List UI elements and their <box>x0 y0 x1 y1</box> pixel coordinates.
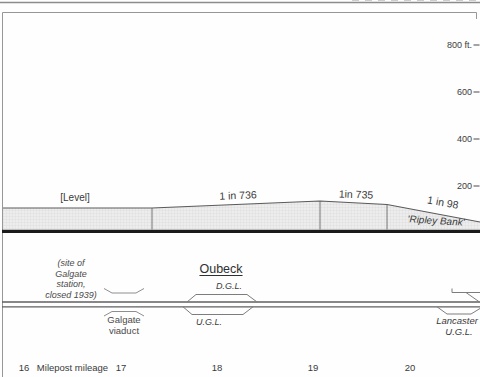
galgate-station-note: (site of Galgate station, closed 1939) <box>45 258 97 300</box>
oubeck-up-goods-loop <box>183 307 253 315</box>
gradient-label-level: [Level] <box>60 192 89 204</box>
oubeck-dgl-label: D.G.L. <box>216 281 242 291</box>
milepost-20: 20 <box>405 363 416 374</box>
elevation-ticks <box>474 45 480 186</box>
lancaster-up-goods-loop <box>437 307 480 314</box>
elevation-label-400: 400 <box>457 134 472 144</box>
milepost-17: 17 <box>116 363 127 374</box>
galgate-viaduct-label: Galgate viaduct <box>107 314 140 336</box>
milepost-19: 19 <box>308 363 319 374</box>
oubeck-title: Oubeck <box>199 262 242 276</box>
milepost-16: 16 <box>19 363 30 374</box>
gradient-profile-diagram: 800 ft. 600 400 200 [Level] 1 in 736 1in… <box>0 0 480 377</box>
gradient-label-1in736: 1 in 736 <box>219 188 257 202</box>
milepost-18: 18 <box>212 363 223 374</box>
gradient-label-1in735: 1in 735 <box>339 187 374 200</box>
elevation-label-200: 200 <box>457 181 472 191</box>
milepost-axis-label: Milepost mileage <box>37 363 108 374</box>
lancaster-ugl-label: U.G.L. <box>445 327 472 338</box>
lancaster-loops <box>437 289 480 315</box>
oubeck-loops <box>183 295 257 315</box>
oubeck-down-goods-loop <box>187 295 257 303</box>
elevation-label-800: 800 ft. <box>447 40 472 50</box>
elevation-label-600: 600 <box>457 87 472 97</box>
oubeck-ugl-label: U.G.L. <box>196 317 222 327</box>
